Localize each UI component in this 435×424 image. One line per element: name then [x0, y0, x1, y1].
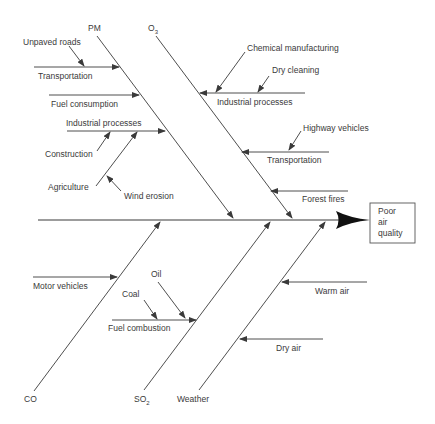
effect-label-line3: quality — [378, 228, 403, 238]
construction-label: Construction — [45, 149, 93, 159]
pm-category-label: PM — [88, 23, 101, 33]
o3-transportation-label: Transportation — [267, 155, 322, 165]
spine-arrowhead-icon — [336, 211, 370, 229]
chemical-manufacturing-label: Chemical manufacturing — [247, 43, 339, 53]
so2-bone: SO2 Fuel combustion Coal Oil — [108, 222, 270, 406]
main-spine — [38, 211, 370, 229]
fuel-consumption-label: Fuel consumption — [51, 99, 118, 109]
co-category-label: CO — [24, 394, 37, 404]
fuel-combustion-label: Fuel combustion — [108, 323, 171, 333]
highway-vehicles-label: Highway vehicles — [303, 123, 369, 133]
so2-category-label: SO2 — [134, 394, 150, 406]
fishbone-diagram: Poor air quality PM Transportation Unpav… — [0, 0, 435, 424]
coal-label: Coal — [122, 289, 140, 299]
dry-cleaning-label: Dry cleaning — [272, 65, 320, 75]
effect-label-line1: Poor — [378, 206, 396, 216]
agriculture-label: Agriculture — [48, 182, 89, 192]
pm-industrial-processes-label: Industrial processes — [66, 118, 142, 128]
co-bone: CO Motor vehicles — [24, 222, 160, 404]
pm-bone: PM Transportation Unpaved roads Fuel con… — [23, 23, 233, 218]
effect-box: Poor air quality — [370, 203, 415, 243]
unpaved-roads-label: Unpaved roads — [23, 37, 81, 47]
o3-bone: O3 Industrial processes Chemical manufac… — [148, 23, 369, 218]
weather-category-label: Weather — [177, 394, 209, 404]
effect-label-line2: air — [378, 217, 388, 227]
pm-transportation-label: Transportation — [38, 71, 93, 81]
dry-air-label: Dry air — [276, 343, 301, 353]
wind-erosion-label: Wind erosion — [124, 191, 174, 201]
warm-air-label: Warm air — [315, 286, 349, 296]
o3-industrial-processes-label: Industrial processes — [217, 97, 293, 107]
forest-fires-label: Forest fires — [302, 194, 345, 204]
motor-vehicles-label: Motor vehicles — [33, 281, 88, 291]
oil-label: Oil — [151, 269, 162, 279]
weather-bone: Weather Warm air Dry air — [177, 222, 367, 404]
o3-category-label: O3 — [148, 23, 159, 35]
